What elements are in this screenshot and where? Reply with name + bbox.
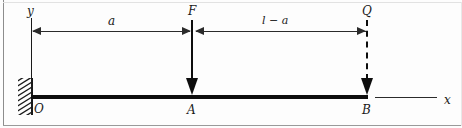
- dimension-line-a: [33, 31, 190, 32]
- origin-label-O: O: [34, 103, 44, 115]
- point-label-A: A: [187, 104, 196, 116]
- fixed-support-hatching: [18, 78, 32, 115]
- force-F-arrowhead-icon: [186, 78, 198, 95]
- figure-frame-bottom: [3, 125, 462, 126]
- point-label-B: B: [362, 104, 371, 116]
- force-Q-stem: [366, 20, 368, 80]
- dimension-line-l-minus-a: [196, 31, 366, 32]
- y-axis-label: y: [27, 5, 34, 17]
- force-Q-label: Q: [362, 5, 372, 17]
- beam-member: [31, 95, 368, 99]
- x-axis-label: x: [444, 94, 451, 106]
- force-F-stem: [191, 20, 193, 80]
- figure-frame-top: [3, 2, 462, 3]
- figure-frame-left: [3, 0, 4, 126]
- dimension-arrow-a-right: [182, 27, 191, 35]
- dimension-label-l-minus-a: l − a: [262, 15, 288, 26]
- dimension-arrow-lma-left: [195, 27, 204, 35]
- dimension-arrow-lma-right: [357, 27, 366, 35]
- dimension-label-a: a: [108, 15, 115, 27]
- force-Q-arrowhead-icon: [361, 78, 373, 95]
- dimension-arrow-a-left: [32, 27, 41, 35]
- x-axis-line: [375, 97, 437, 98]
- beam-diagram-figure: y x a l − a: [0, 0, 462, 128]
- force-F-label: F: [188, 5, 196, 17]
